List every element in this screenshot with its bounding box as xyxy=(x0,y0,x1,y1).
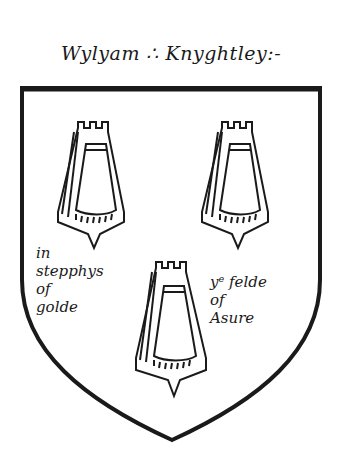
annotation-right-line3: Asure xyxy=(210,309,267,327)
annotation-right-line2: of xyxy=(210,291,267,309)
annotation-right-line1: yᵉ felde xyxy=(210,273,267,291)
annotation-left-line2: stepphys xyxy=(36,262,104,280)
annotation-left: in stepphys of golde xyxy=(36,244,104,316)
annotation-left-line4: golde xyxy=(36,298,104,316)
heraldic-shield xyxy=(0,0,342,469)
annotation-right: yᵉ felde of Asure xyxy=(210,273,267,327)
annotation-left-line1: in xyxy=(36,244,104,262)
annotation-left-line3: of xyxy=(36,280,104,298)
